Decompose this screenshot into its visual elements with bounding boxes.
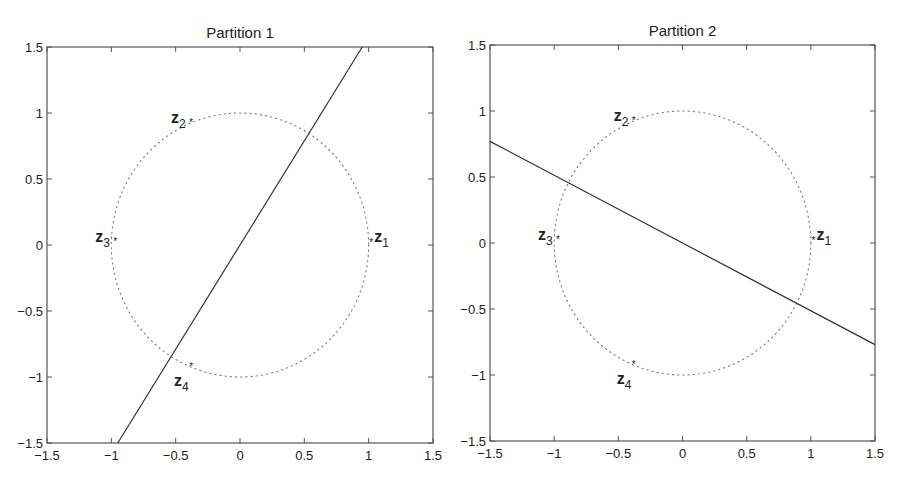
x-tick-label: 1.5 [866,446,884,461]
point-marker-star: * [189,117,193,128]
partition-2-chart: Partition 2−1.5−1−0.500.511.5−1.5−1−0.50… [454,0,908,488]
point-marker-star: * [632,115,636,126]
point-marker-star: * [556,234,560,245]
y-tick-label: −1.5 [460,434,486,449]
y-tick-label: −1 [28,370,43,385]
x-tick-label: 1.5 [424,448,442,463]
x-tick-label: 0.5 [295,448,313,463]
y-tick-label: 1 [479,104,486,119]
point-label-z4: z4 [174,372,189,394]
y-tick-label: 1.5 [468,38,486,53]
y-tick-label: 1.5 [25,40,43,55]
partition-line [118,47,362,443]
point-marker-star: * [113,236,117,247]
y-tick-label: −1 [471,368,486,383]
point-label-z2: z2 [614,107,629,129]
point-marker-star: * [632,359,636,370]
y-tick-label: 0.5 [25,172,43,187]
x-tick-label: 1 [365,448,372,463]
x-tick-label: 0 [679,446,686,461]
x-tick-label: 0.5 [738,446,756,461]
point-label-z2: z2 [171,109,186,131]
partition-1-plot: Partition 1−1.5−1−0.500.511.5−1.5−1−0.50… [0,0,454,488]
chart-title: Partition 1 [206,24,274,41]
x-tick-label: −0.5 [605,446,631,461]
point-marker-star: * [369,237,373,248]
y-tick-label: −0.5 [17,304,43,319]
point-label-z3: z3 [538,226,553,248]
point-label-z1: z1 [816,226,831,248]
y-tick-label: −0.5 [460,302,486,317]
x-tick-label: −1 [547,446,562,461]
y-tick-label: 0 [479,236,486,251]
point-label-z1: z1 [374,228,389,250]
x-tick-label: 0 [236,448,243,463]
y-tick-label: 0.5 [468,170,486,185]
y-tick-label: 0 [36,238,43,253]
partition-2-plot: Partition 2−1.5−1−0.500.511.5−1.5−1−0.50… [454,0,908,488]
partition-1-chart: Partition 1−1.5−1−0.500.511.5−1.5−1−0.50… [0,0,454,488]
point-label-z3: z3 [95,228,110,250]
point-marker-star: * [189,361,193,372]
point-label-z4: z4 [617,370,632,392]
y-tick-label: 1 [36,106,43,121]
x-tick-label: 1 [807,446,814,461]
x-tick-label: −1 [104,448,119,463]
chart-title: Partition 2 [649,22,717,39]
y-tick-label: −1.5 [17,436,43,451]
x-tick-label: −0.5 [163,448,189,463]
point-marker-star: * [811,235,815,246]
